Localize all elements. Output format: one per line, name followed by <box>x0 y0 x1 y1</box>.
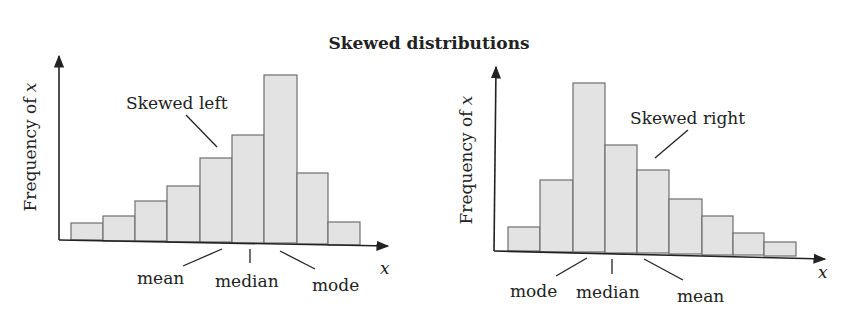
left-mode-pointer <box>280 251 315 269</box>
right-bar-1 <box>508 227 540 251</box>
right-mean-label: mean <box>677 286 724 306</box>
figure-svg: Skewed distributions Frequency of x x <box>0 0 855 328</box>
left-bar-4 <box>167 186 200 242</box>
left-bar-8 <box>297 173 328 244</box>
left-bar-9 <box>328 222 360 245</box>
right-bar-6 <box>669 199 702 254</box>
left-bar-2 <box>103 216 135 241</box>
right-bar-2 <box>540 180 573 252</box>
left-bar-1 <box>71 223 103 240</box>
right-median-label: median <box>576 282 640 302</box>
left-bar-5 <box>200 158 232 242</box>
skewed-distributions-figure: Skewed distributions Frequency of x x <box>0 0 855 328</box>
right-bar-4 <box>605 145 637 253</box>
right-mean-pointer <box>644 259 683 280</box>
right-bar-9 <box>764 242 796 256</box>
left-chart: Frequency of x x Skewed left <box>20 56 390 295</box>
left-median-label: median <box>215 271 279 291</box>
left-bar-3 <box>135 201 167 241</box>
left-annotation-skewed-left: Skewed left <box>126 93 228 113</box>
right-x-axis-label: x <box>818 262 828 282</box>
left-y-axis-label: Frequency of x <box>20 82 40 211</box>
right-annotation-skewed-right: Skewed right <box>630 108 745 128</box>
left-x-axis-label: x <box>380 258 390 278</box>
right-bar-3 <box>573 83 605 252</box>
right-chart: Frequency of x x Skewed right <box>456 67 828 306</box>
right-bar-8 <box>733 233 764 255</box>
right-mode-label: mode <box>510 281 557 301</box>
right-mode-pointer <box>556 258 587 276</box>
left-annotation-pointer <box>186 115 217 147</box>
left-bar-7 <box>264 75 297 243</box>
right-bar-5 <box>637 170 669 253</box>
left-mean-pointer <box>183 249 222 266</box>
left-bar-6 <box>232 135 264 243</box>
right-y-axis <box>494 67 496 251</box>
right-bar-7 <box>702 216 733 255</box>
left-mean-label: mean <box>137 268 184 288</box>
figure-title: Skewed distributions <box>328 33 529 53</box>
left-mode-label: mode <box>312 275 359 295</box>
right-y-axis-label: Frequency of x <box>456 95 476 224</box>
right-annotation-pointer <box>655 130 688 158</box>
